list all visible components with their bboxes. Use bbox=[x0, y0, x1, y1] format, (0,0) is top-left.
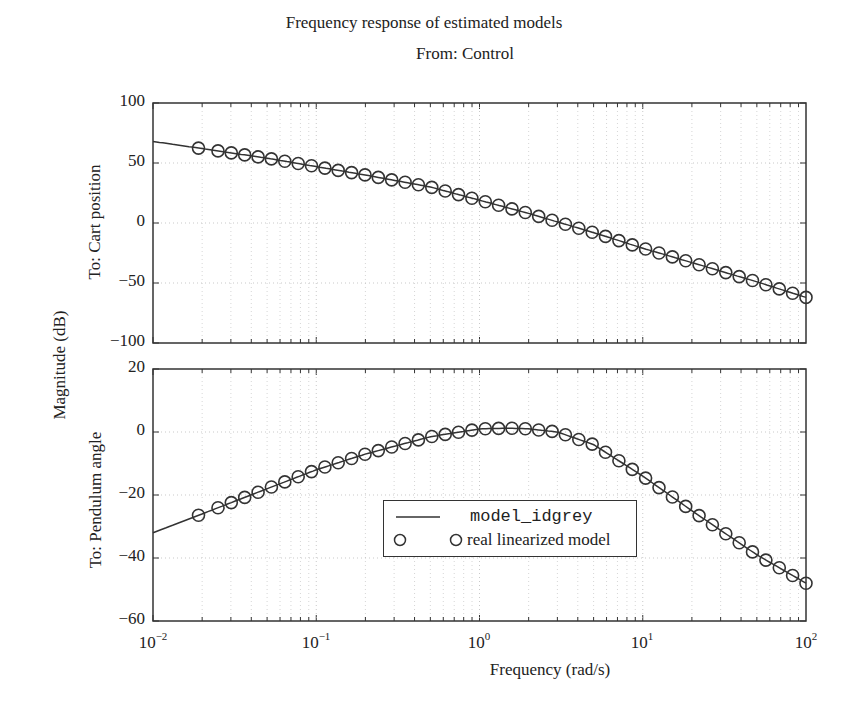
line-swatch-icon bbox=[396, 505, 456, 529]
plot-area bbox=[0, 0, 848, 715]
legend: model_idgrey real linearized model bbox=[383, 500, 637, 557]
top-grid bbox=[153, 103, 806, 343]
legend-marker-label: real linearized model bbox=[467, 530, 610, 550]
legend-line-label: model_idgrey bbox=[470, 507, 592, 526]
top-subplot-series bbox=[153, 141, 812, 303]
circle-marker-icon bbox=[388, 529, 468, 553]
